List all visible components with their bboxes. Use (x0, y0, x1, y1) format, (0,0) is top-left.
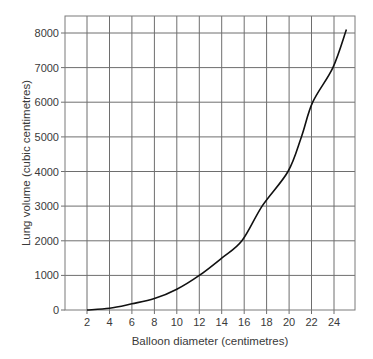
x-tick-label: 8 (151, 316, 157, 328)
y-tick-label: 4000 (35, 166, 59, 178)
chart: 010002000300040005000600070008000 246810… (0, 0, 373, 359)
x-tick-label: 14 (216, 316, 228, 328)
y-tick-label: 2000 (35, 235, 59, 247)
y-tick-label: 8000 (35, 27, 59, 39)
x-tick-label: 12 (193, 316, 205, 328)
x-tick-label: 18 (260, 316, 272, 328)
x-tick-label: 24 (328, 316, 340, 328)
y-tick-label: 6000 (35, 96, 59, 108)
x-tick-label: 6 (129, 316, 135, 328)
x-tick-label: 4 (106, 316, 112, 328)
y-tick-label: 5000 (35, 131, 59, 143)
x-tick-label: 22 (305, 316, 317, 328)
x-tick-label: 20 (283, 316, 295, 328)
x-tick-label: 10 (171, 316, 183, 328)
x-axis-ticks: 24681012141618202224 (84, 316, 340, 328)
y-axis-label: Lung volume (cubic centimetres) (20, 80, 32, 246)
x-tick-label: 2 (84, 316, 90, 328)
y-axis-ticks: 010002000300040005000600070008000 (35, 27, 59, 316)
y-tick-label: 7000 (35, 62, 59, 74)
x-tick-label: 16 (238, 316, 250, 328)
y-tick-label: 1000 (35, 269, 59, 281)
x-axis-label: Balloon diameter (centimetres) (132, 335, 289, 347)
y-tick-label: 3000 (35, 200, 59, 212)
y-tick-label: 0 (53, 304, 59, 316)
data-line (87, 30, 346, 311)
